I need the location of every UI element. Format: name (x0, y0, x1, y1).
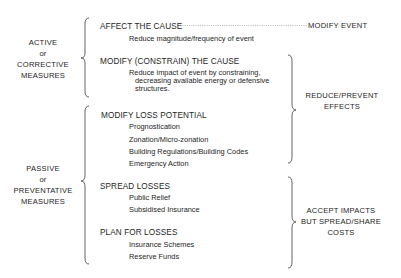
label-line: REDUCE/PREVENT (300, 90, 384, 101)
strategy-item: Emergency Action (129, 159, 189, 168)
label-line: or (14, 48, 72, 59)
strategy-item: Building Regulations/Building Codes (129, 147, 248, 156)
right-brace-reduce (288, 55, 296, 163)
label-accept-impacts: ACCEPT IMPACTS BUT SPREAD/SHARE COSTS (296, 205, 386, 238)
strategy-item: Insurance Schemes (129, 240, 194, 249)
label-active-corrective: ACTIVE or CORRECTIVE MEASURES (14, 37, 72, 81)
label-passive-preventative: PASSIVE or PREVENTATIVE MEASURES (10, 163, 76, 207)
left-brace-active (81, 18, 89, 97)
label-line: PREVENTATIVE (10, 185, 76, 196)
label-line: ACCEPT IMPACTS (296, 205, 386, 216)
label-line: CORRECTIVE (14, 59, 72, 70)
label-reduce-prevent: REDUCE/PREVENT EFFECTS (300, 90, 384, 112)
label-line: ACTIVE (14, 37, 72, 48)
strategy-title-modify-cause: MODIFY (CONSTRAIN) THE CAUSE (100, 57, 239, 66)
strategy-title-spread-losses: SPREAD LOSSES (100, 182, 170, 191)
label-line: BUT SPREAD/SHARE (296, 216, 386, 227)
strategy-item: Subsidised Insurance (129, 205, 200, 214)
label-line: or (10, 174, 76, 185)
strategy-title-plan-losses: PLAN FOR LOSSES (100, 228, 178, 237)
strategy-item: structures. (135, 84, 170, 93)
right-brace-accept (288, 177, 296, 268)
strategy-item: Reserve Funds (129, 252, 179, 261)
label-line: PASSIVE (10, 163, 76, 174)
label-line: MEASURES (14, 70, 72, 81)
label-modify-event: MODIFY EVENT (308, 20, 378, 31)
label-line: MEASURES (10, 196, 76, 207)
label-line: MODIFY EVENT (308, 20, 378, 31)
strategy-title-affect-cause: AFFECT THE CAUSE (100, 22, 182, 31)
left-brace-passive (81, 106, 89, 264)
label-line: COSTS (296, 227, 386, 238)
strategy-item: Zonation/Micro-zonation (129, 135, 208, 144)
strategy-title-modify-loss: MODIFY LOSS POTENTIAL (101, 111, 207, 120)
strategy-item: Reduce magnitude/frequency of event (129, 34, 254, 43)
strategy-item: Prognostication (129, 122, 180, 131)
label-line: EFFECTS (300, 101, 384, 112)
strategy-item: Public Relief (129, 193, 170, 202)
